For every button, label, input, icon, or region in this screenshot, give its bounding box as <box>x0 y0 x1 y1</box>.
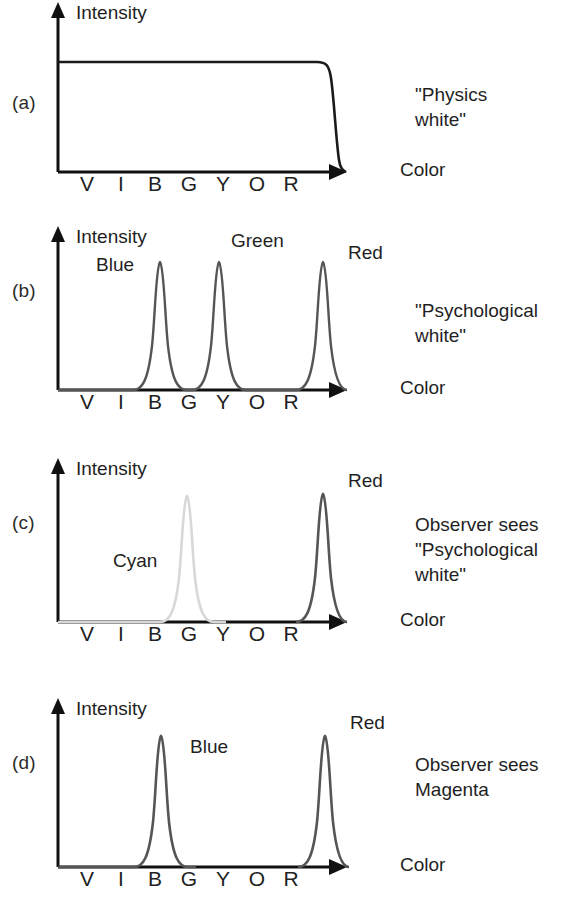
tick-label: R <box>274 867 308 891</box>
panel-c-curve-label-cyan: Cyan <box>113 550 157 572</box>
panel-b-tick-labels: V I B G Y O R <box>70 390 308 414</box>
tick-label: G <box>172 867 206 891</box>
tick-label: Y <box>206 622 240 646</box>
panel-d: (d) Intensity Color Blue Red V I B G Y O… <box>0 690 566 905</box>
tick-label: R <box>274 622 308 646</box>
tick-label: V <box>70 172 104 196</box>
panel-c-tick-labels: V I B G Y O R <box>70 622 308 646</box>
panel-b-y-axis-label: Intensity <box>76 226 147 248</box>
panel-b: (b) Intensity Color Blue Green Red V I B… <box>0 218 566 430</box>
tick-label: G <box>172 172 206 196</box>
tick-label: I <box>104 622 138 646</box>
tick-label: O <box>240 622 274 646</box>
panel-d-curve-label-blue: Blue <box>190 736 228 758</box>
tick-label: G <box>172 390 206 414</box>
tick-label: G <box>172 622 206 646</box>
tick-label: B <box>138 172 172 196</box>
tick-label: O <box>240 172 274 196</box>
tick-label: V <box>70 867 104 891</box>
panel-d-y-axis-label: Intensity <box>76 698 147 720</box>
panel-d-curve-label-red: Red <box>350 712 385 734</box>
panel-a: (a) Intensity Color V I B G Y O R "Physi… <box>0 0 566 200</box>
tick-label: V <box>70 622 104 646</box>
panel-c-x-axis-label: Color <box>400 609 445 631</box>
panel-b-curve-label-blue: Blue <box>96 254 134 276</box>
panel-a-tick-labels: V I B G Y O R <box>70 172 308 196</box>
tick-label: I <box>104 172 138 196</box>
tick-label: B <box>138 390 172 414</box>
tick-label: B <box>138 867 172 891</box>
tick-label: O <box>240 390 274 414</box>
tick-label: Y <box>206 172 240 196</box>
panel-b-curve-label-green: Green <box>231 230 284 252</box>
panel-b-note: "Psychological white" <box>415 298 538 348</box>
tick-label: R <box>274 172 308 196</box>
panel-c-note: Observer sees "Psychological white" <box>415 512 539 587</box>
panel-c-curve-label-red: Red <box>348 470 383 492</box>
panel-a-x-axis-label: Color <box>400 159 445 181</box>
panel-d-x-axis-label: Color <box>400 854 445 876</box>
panel-c-y-axis-label: Intensity <box>76 458 147 480</box>
panel-a-note: "Physics white" <box>415 82 487 132</box>
panel-d-note: Observer sees Magenta <box>415 752 539 802</box>
tick-label: Y <box>206 390 240 414</box>
tick-label: I <box>104 390 138 414</box>
tick-label: O <box>240 867 274 891</box>
tick-label: I <box>104 867 138 891</box>
panel-a-y-axis-label: Intensity <box>76 2 147 24</box>
tick-label: B <box>138 622 172 646</box>
tick-label: V <box>70 390 104 414</box>
tick-label: Y <box>206 867 240 891</box>
panel-b-curve-label-red: Red <box>348 242 383 264</box>
panel-c: (c) Intensity Color Cyan Red V I B G Y O… <box>0 450 566 662</box>
panel-b-x-axis-label: Color <box>400 377 445 399</box>
panel-a-plot <box>0 0 400 200</box>
panel-d-tick-labels: V I B G Y O R <box>70 867 308 891</box>
tick-label: R <box>274 390 308 414</box>
